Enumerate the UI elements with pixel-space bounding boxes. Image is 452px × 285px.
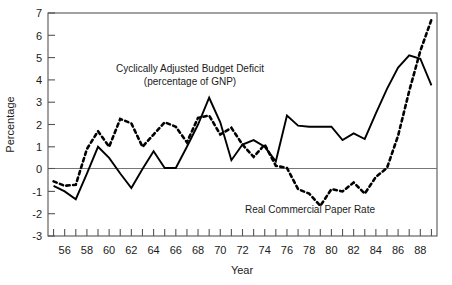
x-tick-label: 86 <box>392 244 404 256</box>
x-axis-title: Year <box>231 264 254 276</box>
y-tick-label: -1 <box>32 186 42 198</box>
x-tick-label: 82 <box>348 244 360 256</box>
x-tick-label: 84 <box>370 244 382 256</box>
y-axis-tick-labels: 7 6 5 4 3 2 1 0 -1 -2 -3 <box>32 7 42 242</box>
x-tick-label: 70 <box>214 244 226 256</box>
paper-rate-annotation: Real Commercial Paper Rate <box>245 204 375 215</box>
x-axis-ticks <box>54 229 432 236</box>
x-tick-label: 62 <box>125 244 137 256</box>
data-series-layer <box>54 20 432 206</box>
y-axis-title: Percentage <box>4 96 16 152</box>
x-tick-label: 60 <box>103 244 115 256</box>
y-tick-label: 3 <box>36 96 42 108</box>
x-tick-label: 72 <box>236 244 248 256</box>
y-tick-label: 7 <box>36 7 42 19</box>
y-tick-label: 2 <box>36 119 42 131</box>
budget-deficit-annotation-line1: Cyclically Adjusted Budget Deficit <box>116 63 264 74</box>
x-tick-label: 78 <box>303 244 315 256</box>
y-tick-label: -2 <box>32 208 42 220</box>
y-tick-label: 6 <box>36 30 42 42</box>
x-tick-label: 66 <box>170 244 182 256</box>
series-line-paper-rate <box>54 20 432 206</box>
x-tick-label: 80 <box>325 244 337 256</box>
y-tick-label: -3 <box>32 230 42 242</box>
plot-border <box>48 13 437 236</box>
plot-frame <box>48 13 437 236</box>
x-tick-label: 64 <box>147 244 159 256</box>
x-tick-label: 88 <box>414 244 426 256</box>
y-tick-label: 5 <box>36 52 42 64</box>
x-axis-tick-labels: 5658606264666870727476788082848688 <box>59 244 427 256</box>
budget-deficit-annotation-line2: (percentage of GNP) <box>144 76 236 87</box>
chart-annotations: Cyclically Adjusted Budget Deficit (perc… <box>116 63 375 215</box>
x-tick-label: 68 <box>192 244 204 256</box>
x-tick-label: 56 <box>59 244 71 256</box>
x-tick-label: 58 <box>81 244 93 256</box>
x-tick-label: 76 <box>281 244 293 256</box>
y-tick-label: 1 <box>36 141 42 153</box>
chart-canvas: 7 6 5 4 3 2 1 0 -1 -2 -3 Percentage 5658… <box>0 0 452 285</box>
x-tick-label: 74 <box>259 244 271 256</box>
chart-figure: 7 6 5 4 3 2 1 0 -1 -2 -3 Percentage 5658… <box>0 0 452 285</box>
y-tick-label: 0 <box>36 163 42 175</box>
y-tick-label: 4 <box>36 74 42 86</box>
y-axis-ticks <box>48 13 55 236</box>
